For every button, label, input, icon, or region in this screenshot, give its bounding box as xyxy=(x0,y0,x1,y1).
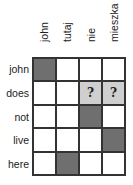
row-label: john xyxy=(0,57,29,81)
empty-cell xyxy=(33,128,56,151)
aligned-cell xyxy=(79,105,102,128)
uncertain-cell: ? xyxy=(79,81,102,104)
column-label-text: mieszka xyxy=(108,3,120,42)
empty-cell xyxy=(56,128,79,151)
empty-cell xyxy=(79,58,102,81)
empty-cell xyxy=(102,58,125,81)
empty-cell xyxy=(56,58,79,81)
column-label-text: john xyxy=(38,22,50,42)
empty-cell xyxy=(56,105,79,128)
row-label: does xyxy=(0,81,29,105)
column-label: mieszka xyxy=(103,2,126,54)
empty-cell xyxy=(33,81,56,104)
alignment-grid: ?? xyxy=(32,57,126,176)
empty-cell xyxy=(56,81,79,104)
column-label-text: tutaj xyxy=(61,22,73,42)
row-label: not xyxy=(0,105,29,129)
aligned-cell xyxy=(33,58,56,81)
question-mark-icon: ? xyxy=(110,86,117,100)
column-label: john xyxy=(32,2,55,54)
empty-cell xyxy=(79,128,102,151)
empty-cell xyxy=(102,105,125,128)
empty-cell xyxy=(79,152,102,175)
row-label: here xyxy=(0,152,29,176)
empty-cell xyxy=(33,105,56,128)
column-label: nie xyxy=(79,2,102,54)
aligned-cell xyxy=(56,152,79,175)
question-mark-icon: ? xyxy=(87,86,94,100)
aligned-cell xyxy=(102,128,125,151)
empty-cell xyxy=(102,152,125,175)
uncertain-cell: ? xyxy=(102,81,125,104)
empty-cell xyxy=(33,152,56,175)
row-label: live xyxy=(0,128,29,152)
column-label-text: nie xyxy=(85,28,97,42)
column-label: tutaj xyxy=(56,2,79,54)
